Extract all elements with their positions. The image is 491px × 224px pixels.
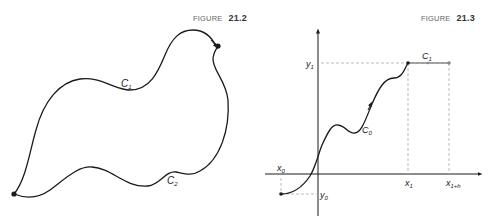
label-c1: C1	[121, 78, 132, 90]
figures-canvas: C1 C2 C0 C1 y1 y0 x0 x1	[0, 0, 491, 224]
label-c0: C0	[362, 125, 373, 136]
curve-c1	[14, 30, 216, 194]
point-x1-y1	[406, 61, 410, 65]
end-point	[215, 43, 220, 48]
curve-c2	[14, 47, 228, 197]
label-x1h: x1+h	[445, 178, 461, 189]
label-y1: y1	[305, 59, 314, 70]
label-c2: C2	[167, 175, 178, 187]
label-x0: x0	[276, 163, 286, 174]
figure-21-3: C0 C1 y1 y0 x0 x1 x1+h	[265, 31, 480, 216]
start-point	[11, 191, 16, 196]
segment-mid-dot	[427, 62, 430, 65]
segment-end-dot	[447, 61, 451, 65]
label-y0: y0	[319, 190, 329, 201]
label-c1-segment: C1	[422, 51, 432, 62]
figure-21-2: C1 C2	[11, 30, 228, 197]
label-x1: x1	[404, 178, 413, 189]
point-x0-y0	[279, 192, 283, 196]
